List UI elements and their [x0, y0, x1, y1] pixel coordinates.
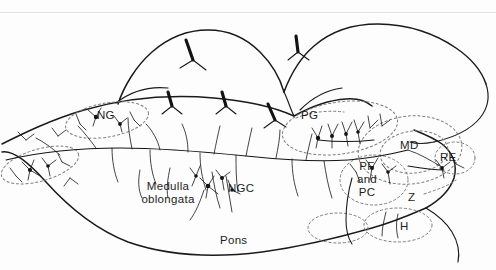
neuron-cluster-ng-lateral: [10, 154, 70, 182]
ng-lateral-boundary: [0, 139, 83, 192]
label-pons: Pons: [220, 234, 247, 247]
h-adjacent-boundary: [308, 213, 368, 243]
label-pf-and-pc: PF and PC: [352, 160, 382, 200]
label-medulla-oblongata: Medulla oblongata: [128, 180, 208, 206]
label-re: RE: [440, 151, 457, 164]
pg-boundary: [279, 94, 401, 162]
figure-canvas: .ol{fill:none;stroke:#1a1a1a;stroke-widt…: [0, 0, 496, 270]
neuron-cluster-pg: [312, 114, 390, 148]
heavy-fiber-stubs: [162, 36, 309, 128]
cerebellum-upper-outline: [116, 24, 488, 144]
label-h: H: [400, 220, 409, 233]
label-md: MD: [400, 139, 419, 152]
label-z: Z: [408, 191, 415, 204]
brainstem-drawing: .ol{fill:none;stroke:#1a1a1a;stroke-widt…: [0, 0, 496, 270]
label-ngc: NGC: [228, 182, 254, 195]
label-pg: PG: [301, 109, 318, 122]
label-ng: NG: [97, 109, 115, 122]
